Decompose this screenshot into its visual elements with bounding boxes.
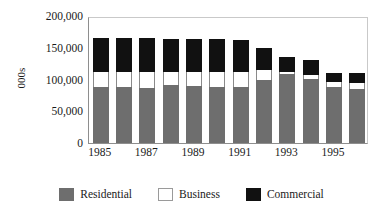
bar-segment-residential	[186, 86, 202, 143]
bar-segment-commercial	[163, 39, 179, 72]
bar-segment-residential	[139, 88, 155, 143]
bar-segment-business	[279, 72, 295, 75]
bar-segment-residential	[209, 87, 225, 144]
legend-item-label: Commercial	[267, 188, 324, 200]
y-axis-tick-label: 200,000	[25, 11, 83, 23]
x-axis-tick-label: 1989	[170, 146, 216, 159]
y-axis-tick-label: 0	[25, 138, 83, 150]
bar-group	[139, 38, 155, 143]
bar-segment-commercial	[116, 38, 132, 72]
gray-swatch-icon	[59, 188, 74, 201]
bar-segment-residential	[349, 89, 365, 143]
legend-item-label: Residential	[80, 188, 132, 200]
bar-group	[163, 39, 179, 143]
bar-segment-residential	[279, 74, 295, 143]
bar-segment-commercial	[256, 48, 272, 70]
white-swatch-icon	[158, 188, 173, 201]
bar-group	[233, 40, 249, 143]
bar-segment-commercial	[186, 39, 202, 72]
y-axis-tick-labels: 050,000100,000150,000200,000	[25, 0, 83, 213]
y-axis-tick-label: 100,000	[25, 75, 83, 87]
stacked-bar-chart: 000s 050,000100,000150,000200,000 198519…	[0, 0, 383, 213]
bar-group	[209, 39, 225, 143]
bar-group	[186, 39, 202, 143]
legend-item[interactable]: Commercial	[246, 188, 324, 201]
bar-segment-commercial	[139, 38, 155, 72]
bar-segment-business	[303, 75, 319, 79]
bar-group	[349, 73, 365, 143]
legend-item[interactable]: Residential	[59, 188, 132, 201]
bar-segment-business	[116, 72, 132, 87]
y-axis-tick-label: 50,000	[25, 106, 83, 118]
bar-segment-commercial	[279, 57, 295, 72]
x-axis-tick-label: 1993	[263, 146, 309, 159]
bar-segment-business	[186, 72, 202, 86]
x-axis-tick-labels: 198519871989199119931995	[88, 146, 368, 164]
x-axis-tick-label: 1985	[77, 146, 123, 159]
legend-item-label: Business	[179, 188, 220, 200]
bar-segment-residential	[326, 87, 342, 143]
chart-legend: ResidentialBusinessCommercial	[0, 184, 383, 204]
bar-group	[116, 38, 132, 143]
bar-segment-commercial	[233, 40, 249, 72]
legend-item[interactable]: Business	[158, 188, 220, 201]
x-axis-tick-label: 1991	[217, 146, 263, 159]
bar-segment-residential	[93, 87, 109, 143]
x-axis-tick-label: 1987	[123, 146, 169, 159]
bar-segment-business	[233, 72, 249, 87]
bar-segment-business	[93, 72, 109, 87]
bar-segment-residential	[256, 80, 272, 144]
bar-segment-business	[349, 83, 365, 89]
bar-group	[303, 60, 319, 143]
bar-group	[279, 57, 295, 143]
bar-segment-commercial	[326, 73, 342, 83]
bar-segment-residential	[163, 85, 179, 143]
bar-group	[256, 48, 272, 143]
bar-group	[326, 73, 342, 143]
bar-segment-commercial	[209, 39, 225, 72]
black-swatch-icon	[246, 188, 261, 201]
bar-segment-business	[326, 82, 342, 87]
bar-segment-residential	[233, 87, 249, 144]
plot-area	[88, 17, 368, 144]
bar-segment-business	[209, 72, 225, 87]
x-axis-tick-label: 1995	[310, 146, 356, 159]
bar-group	[93, 38, 109, 143]
bar-segment-residential	[116, 87, 132, 143]
bar-segment-commercial	[349, 73, 365, 83]
bar-segment-business	[256, 70, 272, 80]
bars-layer	[89, 18, 367, 143]
bar-segment-residential	[303, 79, 319, 143]
bar-segment-commercial	[93, 38, 109, 72]
y-axis-tick-label: 150,000	[25, 43, 83, 55]
bar-segment-business	[163, 72, 179, 85]
bar-segment-business	[139, 72, 155, 88]
bar-segment-commercial	[303, 60, 319, 75]
